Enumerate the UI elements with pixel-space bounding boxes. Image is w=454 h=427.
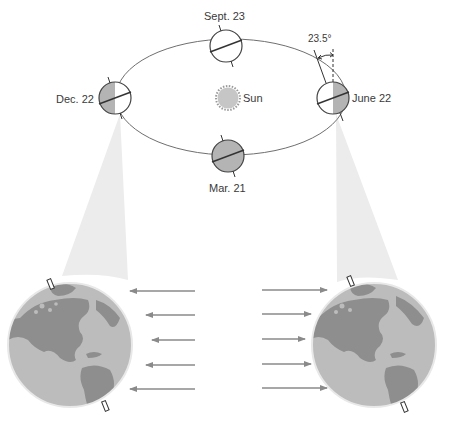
sun-icon bbox=[216, 86, 240, 110]
earth-dec-22-icon bbox=[99, 77, 131, 119]
enlarged-earth-right-icon bbox=[310, 276, 436, 420]
label-mar-21: Mar. 21 bbox=[209, 182, 246, 194]
label-june-22: June 22 bbox=[352, 92, 391, 104]
label-tilt-angle: 23.5° bbox=[308, 33, 331, 45]
label-dec-22: Dec. 22 bbox=[56, 93, 94, 105]
diagram-canvas bbox=[0, 0, 454, 427]
earth-mar-21-icon bbox=[212, 135, 244, 177]
light-beam-left bbox=[62, 114, 128, 280]
sunlight-arrows-left bbox=[130, 291, 195, 389]
seasons-diagram: Sept. 23 Dec. 22 June 22 Mar. 21 Sun 23.… bbox=[0, 0, 454, 427]
enlarged-earth-left-icon bbox=[6, 279, 132, 420]
light-beam-right bbox=[336, 114, 398, 282]
label-sun: Sun bbox=[243, 92, 263, 104]
earth-sept-23-icon bbox=[210, 25, 242, 67]
label-sept-23: Sept. 23 bbox=[204, 10, 245, 22]
